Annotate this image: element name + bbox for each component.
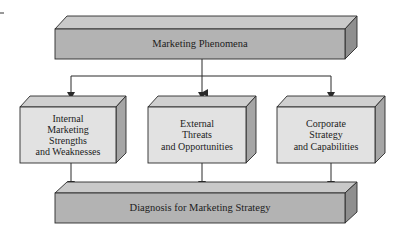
node-label-external: External Threats and Opportunities bbox=[148, 107, 246, 163]
node-label-internal: Internal Marketing Strengths and Weaknes… bbox=[20, 107, 116, 163]
connector-middle-to-bottom bbox=[71, 163, 331, 183]
node-label-corporate: Corporate Strategy and Capabilities bbox=[277, 107, 375, 163]
node-label-marketing-phenomena: Marketing Phenomena bbox=[55, 29, 345, 59]
node-label-diagnosis: Diagnosis for Marketing Strategy bbox=[55, 193, 345, 223]
diagram-canvas: Marketing Phenomena Internal Marketing S… bbox=[0, 0, 407, 238]
